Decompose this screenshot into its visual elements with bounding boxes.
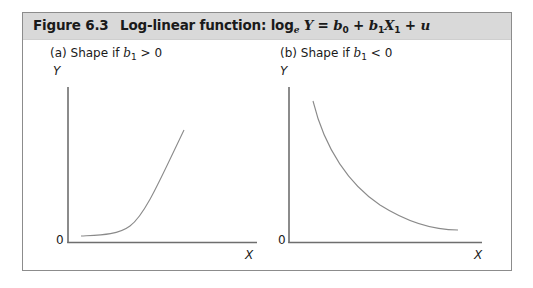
panel-a-curve (81, 130, 184, 236)
plots-canvas (0, 0, 533, 288)
panel-b-curve (313, 101, 458, 230)
panel-b-axes (288, 87, 482, 243)
panel-a-axes (67, 87, 257, 243)
